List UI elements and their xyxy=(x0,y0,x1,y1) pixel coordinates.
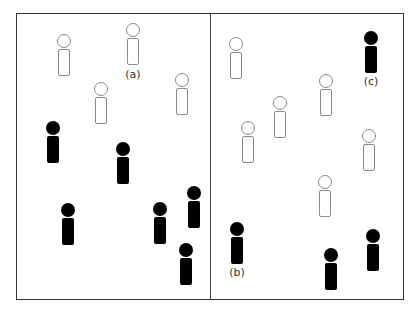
person-body xyxy=(319,190,331,217)
person-head xyxy=(57,34,71,48)
person-head xyxy=(229,37,243,51)
solid-person-icon xyxy=(152,202,168,244)
person-head xyxy=(46,121,60,135)
person-head xyxy=(366,229,380,243)
person-head xyxy=(319,74,333,88)
person-head xyxy=(324,248,338,262)
solid-person-icon xyxy=(363,31,379,73)
person-head xyxy=(94,82,108,96)
solid-person-icon xyxy=(60,203,76,245)
solid-person-icon xyxy=(186,186,202,228)
hollow-person-icon xyxy=(93,82,109,124)
hollow-person-icon xyxy=(174,73,190,115)
person-body xyxy=(176,88,188,115)
person-head xyxy=(116,142,130,156)
person-head xyxy=(273,96,287,110)
person-head xyxy=(318,175,332,189)
hollow-person-icon xyxy=(228,37,244,79)
person-body xyxy=(363,144,375,171)
person-body xyxy=(320,89,332,116)
person-body xyxy=(230,52,242,79)
person-head xyxy=(61,203,75,217)
person-head xyxy=(179,243,193,257)
hollow-person-icon xyxy=(318,74,334,116)
solid-person-icon xyxy=(45,121,61,163)
person-body xyxy=(367,244,379,271)
person-head xyxy=(230,222,244,236)
person-head xyxy=(187,186,201,200)
person-head xyxy=(126,23,140,37)
hollow-person-icon xyxy=(240,121,256,163)
person-head xyxy=(241,121,255,135)
person-body xyxy=(95,97,107,124)
person-head xyxy=(364,31,378,45)
person-body xyxy=(62,218,74,245)
person-body xyxy=(154,217,166,244)
hollow-person-icon xyxy=(361,129,377,171)
hollow-person-icon xyxy=(125,23,141,65)
person-head xyxy=(175,73,189,87)
solid-person-icon xyxy=(178,243,194,285)
person-body xyxy=(180,258,192,285)
person-body xyxy=(58,49,70,76)
solid-person-icon xyxy=(365,229,381,271)
person-body xyxy=(274,111,286,138)
person-body xyxy=(127,38,139,65)
person-body xyxy=(188,201,200,228)
person-head xyxy=(362,129,376,143)
panel-divider xyxy=(210,13,211,300)
label-c: (c) xyxy=(359,75,383,88)
person-body xyxy=(117,157,129,184)
hollow-person-icon xyxy=(272,96,288,138)
solid-person-icon xyxy=(115,142,131,184)
hollow-person-icon xyxy=(317,175,333,217)
solid-person-icon xyxy=(323,248,339,290)
solid-person-icon xyxy=(229,222,245,264)
hollow-person-icon xyxy=(56,34,72,76)
person-body xyxy=(47,136,59,163)
label-b: (b) xyxy=(225,266,249,279)
label-a: (a) xyxy=(121,68,145,81)
person-body xyxy=(242,136,254,163)
person-body xyxy=(365,46,377,73)
person-body xyxy=(231,237,243,264)
person-body xyxy=(325,263,337,290)
person-head xyxy=(153,202,167,216)
